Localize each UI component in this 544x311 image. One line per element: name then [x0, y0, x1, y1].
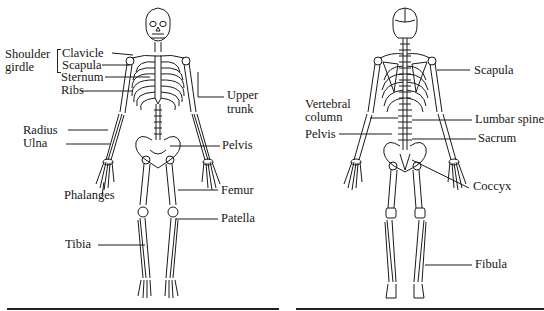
label-vertebral-column-line2: column [305, 111, 343, 124]
label-lumbar-spine: Lumbar spine [475, 113, 544, 126]
label-pelvis: Pelvis [222, 139, 253, 152]
label-sacrum: Sacrum [478, 132, 516, 145]
upper-trunk-leader [198, 72, 224, 97]
label-ribs: Ribs [61, 84, 84, 97]
panel-divider-left [7, 308, 279, 310]
label-femur: Femur [221, 184, 254, 197]
label-phalanges: Phalanges [64, 189, 115, 202]
label-pelvis-back: Pelvis [305, 128, 336, 141]
label-fibula: Fibula [475, 258, 507, 271]
label-coccyx: Coccyx [473, 180, 511, 193]
clavicle-leader [112, 53, 133, 55]
label-shoulder-girdle-line2: girdle [5, 61, 34, 74]
label-scapula-back: Scapula [474, 64, 514, 77]
label-tibia: Tibia [65, 238, 91, 251]
panel-divider-right [296, 308, 544, 310]
posterior-skeleton [339, 8, 476, 298]
label-upper-trunk-line1: Upper [227, 89, 258, 102]
label-ulna: Ulna [23, 137, 47, 150]
label-upper-trunk-line2: trunk [227, 103, 253, 116]
label-patella: Patella [221, 212, 255, 225]
